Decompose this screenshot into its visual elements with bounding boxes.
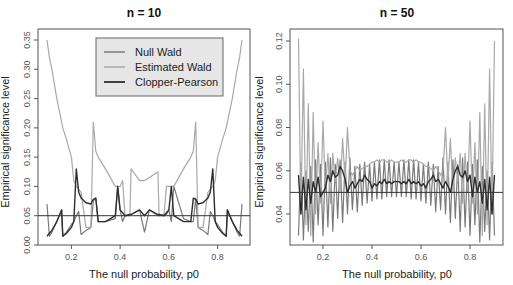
- legend-label-estimated-wald: Estimated Wald: [135, 61, 212, 73]
- x-tick-label: 0.6: [163, 252, 176, 262]
- y-axis: 0.040.060.080.100.12: [274, 32, 290, 223]
- x-axis-label: The null probability, p0: [89, 268, 199, 280]
- y-axis: 0.000.050.100.150.200.250.300.35: [22, 31, 38, 254]
- panel-title: n = 10: [127, 6, 162, 20]
- x-tick-label: 0.8: [464, 252, 477, 262]
- y-tick-label: 0.30: [22, 61, 32, 79]
- series-null-wald: [47, 186, 242, 236]
- x-tick-label: 0.2: [317, 252, 330, 262]
- series-estimated-wald: [299, 39, 495, 236]
- legend-label-null-wald: Null Wald: [135, 46, 182, 58]
- x-tick-label: 0.4: [114, 252, 127, 262]
- y-tick-label: 0.12: [274, 32, 284, 50]
- legend-label-clopper-pearson: Clopper-Pearson: [135, 76, 218, 88]
- x-tick-label: 0.6: [415, 252, 428, 262]
- x-tick-label: 0.2: [65, 252, 78, 262]
- y-tick-label: 0.06: [274, 162, 284, 180]
- series-clopper-pearson: [47, 169, 242, 236]
- panel-n10: n = 10 0.000.050.100.150.200.250.300.35 …: [0, 6, 250, 280]
- y-axis-label: Empirical significance level: [253, 76, 265, 207]
- y-tick-label: 0.08: [274, 119, 284, 137]
- y-tick-label: 0.04: [274, 205, 284, 223]
- y-tick-label: 0.15: [22, 148, 32, 166]
- y-tick-label: 0.10: [274, 75, 284, 93]
- series-group: [299, 39, 495, 242]
- y-tick-label: 0.00: [22, 236, 32, 254]
- y-axis-label: Empirical significance level: [0, 76, 11, 207]
- chart-canvas: n = 10 0.000.050.100.150.200.250.300.35 …: [0, 0, 513, 285]
- x-axis: 0.20.40.60.8: [317, 245, 477, 262]
- y-tick-label: 0.10: [22, 178, 32, 196]
- panel-title: n = 50: [380, 6, 415, 20]
- y-tick-label: 0.05: [22, 207, 32, 225]
- legend: Null Wald Estimated Wald Clopper-Pearson: [96, 38, 223, 96]
- panel-n50: n = 50 0.040.060.080.100.12 0.20.40.60.8…: [253, 6, 503, 280]
- y-tick-label: 0.20: [22, 119, 32, 137]
- y-tick-label: 0.35: [22, 31, 32, 49]
- x-tick-label: 0.8: [211, 252, 224, 262]
- y-tick-label: 0.25: [22, 90, 32, 108]
- x-tick-label: 0.4: [366, 252, 379, 262]
- x-axis-label: The null probability, p0: [342, 268, 452, 280]
- x-axis: 0.20.40.60.8: [65, 245, 224, 262]
